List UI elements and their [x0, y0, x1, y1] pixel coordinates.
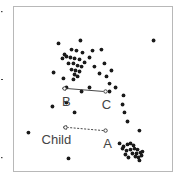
- data-point: [80, 65, 84, 69]
- data-point: [125, 149, 129, 153]
- data-point: [121, 147, 125, 151]
- data-point: [91, 49, 95, 53]
- data-point: [127, 156, 131, 160]
- data-point: [61, 57, 65, 61]
- arrow-a-to-child: [63, 126, 107, 133]
- data-point: [78, 70, 82, 74]
- arrow-shaft: [67, 127, 103, 130]
- data-point: [74, 69, 78, 73]
- data-point: [73, 111, 77, 115]
- data-point: [51, 105, 55, 109]
- data-point: [88, 56, 92, 60]
- point-label-c: C: [102, 97, 111, 112]
- data-point: [67, 62, 71, 66]
- data-point: [114, 86, 118, 90]
- data-point: [73, 57, 77, 61]
- data-point: [129, 148, 133, 152]
- arrow-c-to-b: [62, 87, 107, 93]
- data-point: [76, 75, 80, 79]
- scatter-plot: BCChildA: [0, 0, 180, 179]
- data-point: [122, 94, 126, 98]
- edge-tick-mark: [1, 11, 3, 12]
- data-point: [76, 64, 80, 68]
- data-point: [70, 68, 74, 72]
- data-point: [124, 153, 128, 157]
- data-point: [110, 69, 114, 73]
- data-point: [108, 82, 112, 86]
- open-point-source: [104, 129, 107, 132]
- data-point: [152, 39, 156, 43]
- open-point-source: [104, 90, 107, 93]
- data-point: [93, 65, 97, 69]
- data-point: [100, 48, 104, 52]
- data-point: [81, 51, 85, 55]
- data-point: [79, 39, 83, 43]
- data-point: [108, 90, 112, 94]
- data-point: [121, 103, 125, 107]
- point-label-b: B: [62, 94, 71, 109]
- data-point: [72, 62, 76, 66]
- data-point: [140, 154, 144, 158]
- data-point: [75, 49, 79, 53]
- data-point: [141, 150, 145, 154]
- data-point: [103, 62, 107, 66]
- edge-tick-mark: [1, 79, 3, 80]
- data-point: [118, 142, 122, 146]
- data-point: [98, 72, 102, 76]
- data-point: [70, 48, 74, 52]
- data-point: [88, 86, 92, 90]
- data-point: [78, 58, 82, 62]
- data-point: [138, 159, 142, 163]
- plot-frame: [14, 7, 173, 172]
- edge-tick-mark: [1, 157, 3, 158]
- data-point: [138, 129, 142, 133]
- labels-layer: BCChildA: [42, 94, 113, 151]
- data-point: [136, 148, 140, 152]
- data-point: [67, 157, 71, 161]
- data-point: [27, 131, 31, 135]
- point-label-child: Child: [42, 132, 72, 147]
- open-point-target: [63, 87, 66, 90]
- data-point: [83, 61, 87, 65]
- data-point: [62, 77, 66, 81]
- data-point: [57, 42, 61, 46]
- data-point: [105, 75, 109, 79]
- data-point: [126, 120, 130, 124]
- data-point: [65, 55, 69, 59]
- open-point-target: [64, 126, 67, 129]
- arrow-shaft: [67, 89, 104, 92]
- data-point: [123, 111, 127, 115]
- data-point: [131, 152, 135, 156]
- point-label-a: A: [103, 136, 112, 151]
- data-point: [69, 56, 73, 60]
- data-point: [72, 78, 76, 82]
- data-point: [52, 71, 56, 75]
